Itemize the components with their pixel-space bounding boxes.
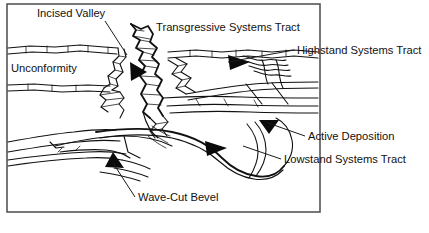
label-active-deposition: Active Deposition bbox=[308, 130, 394, 142]
valley-fill-lobes bbox=[100, 88, 124, 118]
diagram-frame bbox=[7, 4, 320, 212]
wave-cut-bevel-wedge bbox=[8, 142, 150, 181]
label-highstand-systems-tract: Highstand Systems Tract bbox=[297, 44, 422, 56]
wave-cut-bevel-leader bbox=[113, 163, 135, 197]
transgressive-systems-tract-strata bbox=[168, 50, 318, 94]
geologic-cross-section-diagram: Incised Valley Transgressive Systems Tra… bbox=[0, 0, 429, 233]
label-unconformity: Unconformity bbox=[11, 62, 77, 74]
label-wave-cut-bevel: Wave-Cut Bevel bbox=[138, 191, 218, 203]
lowstand-arrowhead bbox=[205, 141, 227, 156]
annotation-leader-lines bbox=[105, 21, 305, 197]
active-deposition-leader bbox=[268, 123, 305, 136]
label-lowstand-systems-tract: Lowstand Systems Tract bbox=[284, 153, 407, 165]
lowstand-leader bbox=[243, 146, 281, 159]
label-incised-valley: Incised Valley bbox=[37, 7, 106, 19]
diagram-canvas: Incised Valley Transgressive Systems Tra… bbox=[0, 0, 429, 233]
mid-strata-belt bbox=[163, 96, 318, 113]
diagram-labels: Incised Valley Transgressive Systems Tra… bbox=[11, 7, 422, 203]
incised-valley-notch bbox=[131, 24, 168, 138]
label-transgressive-systems-tract: Transgressive Systems Tract bbox=[156, 21, 301, 33]
